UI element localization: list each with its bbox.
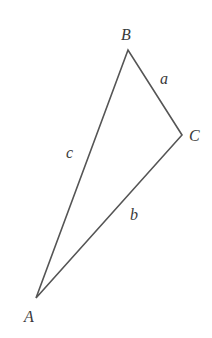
vertex-label-a: A: [23, 308, 34, 325]
triangle-diagram: A B C a b c: [0, 0, 212, 338]
side-label-a: a: [160, 70, 168, 87]
side-label-b: b: [130, 206, 138, 223]
vertex-label-b: B: [121, 26, 131, 43]
side-label-c: c: [66, 144, 73, 161]
vertex-label-c: C: [189, 127, 200, 144]
triangle-abc: [36, 50, 182, 298]
